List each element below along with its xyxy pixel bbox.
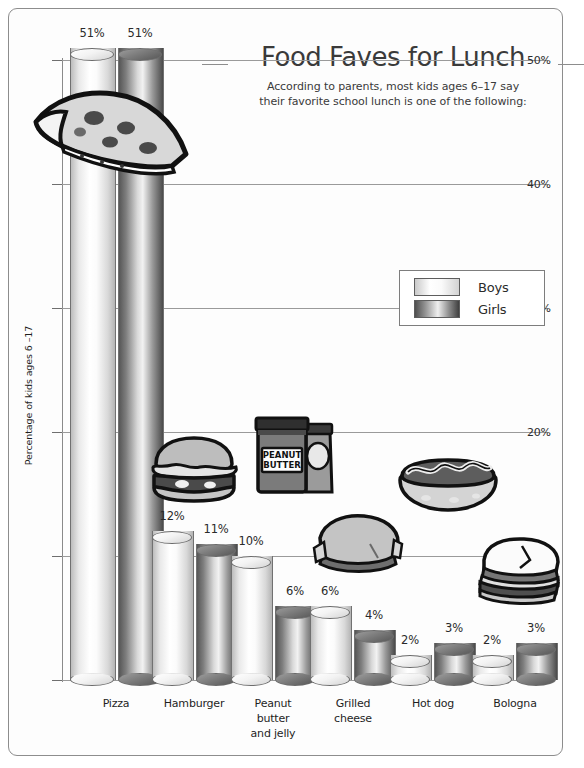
bar-body [152, 531, 194, 680]
bar-top-ellipse [472, 655, 512, 668]
chart-subtitle: According to parents, most kids ages 6–1… [228, 79, 558, 109]
category-line: cheese [312, 711, 394, 726]
value-label-pbj-boys: 10% [229, 534, 273, 548]
value-label-pizza-girls: 51% [118, 26, 162, 40]
svg-text:PEANUT: PEANUT [263, 450, 302, 460]
y-tick-label-20: 20% [527, 426, 575, 439]
bar-grilled-cheese-boys [310, 606, 350, 680]
y-tick-40 [52, 184, 62, 185]
chart-legend: Boys Girls [399, 270, 545, 326]
category-label-pizza: Pizza [74, 696, 158, 711]
bar-top-ellipse [516, 643, 556, 656]
y-tick-30 [52, 308, 62, 309]
bar-base-ellipse [70, 673, 114, 686]
bar-base-ellipse [390, 673, 430, 686]
bar-top-ellipse [275, 606, 315, 619]
y-tick-label-50: 50% [527, 54, 575, 67]
category-line: Grilled [312, 696, 394, 711]
bar-top-ellipse [434, 643, 474, 656]
y-tick-label-40: 40% [527, 178, 575, 191]
bar-pbj-boys [231, 556, 271, 680]
category-label-hot-dog: Hot dog [392, 696, 474, 711]
bar-pbj-girls [275, 606, 315, 680]
value-label-hot-dog-boys: 2% [388, 633, 432, 647]
bar-body [231, 556, 273, 680]
legend-label-boys: Boys [478, 280, 509, 295]
y-tick-0 [52, 680, 62, 681]
y-tick-50 [52, 60, 62, 61]
bar-top-ellipse [70, 48, 114, 61]
hot-dog-icon [392, 452, 504, 514]
category-label-grilled-cheese: Grilled cheese [312, 696, 394, 726]
chart-header: Food Faves for Lunch According to parent… [228, 42, 558, 109]
category-label-hamburger: Hamburger [152, 696, 236, 711]
legend-label-girls: Girls [478, 302, 506, 317]
bar-base-ellipse [231, 673, 271, 686]
bar-hamburger-boys [152, 531, 192, 680]
value-label-bologna-boys: 2% [470, 633, 514, 647]
legend-swatch-boys [414, 278, 460, 296]
legend-item-boys: Boys [414, 278, 544, 296]
value-label-bologna-girls: 3% [514, 621, 558, 635]
pizza-slice-icon [22, 84, 192, 176]
svg-text:BUTTER: BUTTER [263, 460, 301, 470]
bar-base-ellipse [434, 673, 474, 686]
bar-bologna-girls [516, 643, 556, 680]
category-line: Peanut [232, 696, 314, 711]
bar-hot-dog-girls [434, 643, 474, 680]
category-line: Pizza [74, 696, 158, 711]
bar-base-ellipse [516, 673, 556, 686]
category-line: Hamburger [152, 696, 236, 711]
category-label-pbj: Peanut butter and jelly [232, 696, 314, 741]
bar-top-ellipse [310, 606, 350, 619]
y-axis-title: Percentage of kids ages 6 –17 [23, 306, 34, 486]
bar-top-ellipse [231, 556, 271, 569]
category-line: Hot dog [392, 696, 474, 711]
y-tick-10 [52, 556, 62, 557]
bar-top-ellipse [152, 531, 192, 544]
bar-hamburger-girls [196, 544, 236, 680]
title-rule-left [202, 64, 228, 65]
bologna-sandwich-icon [474, 534, 566, 606]
bar-base-ellipse [310, 673, 350, 686]
bar-top-ellipse [118, 48, 162, 61]
chart-subtitle-line-1: According to parents, most kids ages 6–1… [228, 79, 558, 94]
bar-base-ellipse [152, 673, 192, 686]
peanut-butter-jar-icon: PEANUT BUTTER [250, 414, 336, 498]
chart-subtitle-line-2: their favorite school lunch is one of th… [228, 94, 558, 109]
category-label-bologna: Bologna [474, 696, 556, 711]
bar-bologna-boys [472, 655, 512, 680]
bar-hot-dog-boys [390, 655, 430, 680]
value-label-grilled-cheese-girls: 4% [352, 608, 396, 622]
bar-top-ellipse [390, 655, 430, 668]
category-line: butter [232, 711, 314, 726]
y-tick-20 [52, 432, 62, 433]
value-label-grilled-cheese-boys: 6% [308, 584, 352, 598]
chart-title: Food Faves for Lunch [228, 42, 558, 72]
legend-item-girls: Girls [414, 300, 544, 318]
bar-base-ellipse [472, 673, 512, 686]
category-line: and jelly [232, 726, 314, 741]
grilled-cheese-icon [306, 512, 404, 578]
bar-base-ellipse [354, 673, 394, 686]
bar-base-ellipse [196, 673, 236, 686]
value-label-pizza-boys: 51% [70, 26, 114, 40]
bar-base-ellipse [275, 673, 315, 686]
hamburger-icon [148, 434, 240, 504]
legend-swatch-girls [414, 300, 460, 318]
category-line: Bologna [474, 696, 556, 711]
value-label-hamburger-boys: 12% [150, 509, 194, 523]
